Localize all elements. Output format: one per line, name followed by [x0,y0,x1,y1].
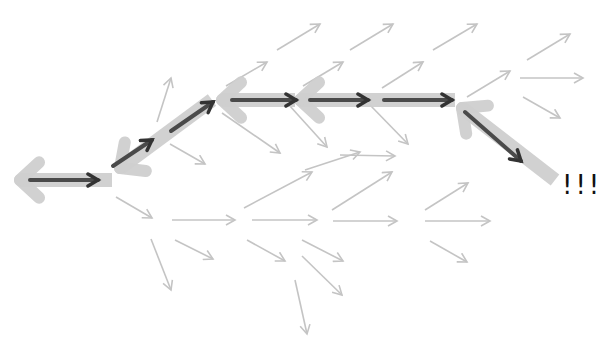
faint-arrow-icon [244,172,312,208]
faint-arrow-icon [247,240,285,261]
faint-arrow-icon [305,152,360,170]
faint-arrow-icon [527,34,570,60]
state-graph-diagram [0,0,610,354]
faint-arrows-layer [116,24,583,334]
faint-arrow-icon [430,241,467,262]
alert-label: !!! [562,170,602,200]
faint-arrow-icon [175,240,213,259]
faint-arrow-icon [425,183,468,210]
faint-arrow-icon [332,172,392,210]
faint-arrow-icon [295,280,307,334]
faint-arrow-icon [467,71,510,97]
faint-arrow-icon [382,62,423,88]
faint-arrow-icon [302,240,343,261]
faint-arrow-icon [433,24,477,50]
faint-arrow-icon [350,24,393,50]
faint-arrow-icon [277,24,320,50]
faint-arrow-icon [523,97,560,118]
highlighted-path-layer [30,100,521,180]
faint-arrow-icon [157,78,171,122]
faint-arrow-icon [151,239,171,290]
faint-arrow-icon [116,197,152,218]
faint-arrow-icon [370,105,408,144]
backtrack-arrow-icon [462,106,555,180]
faint-arrow-icon [222,113,280,153]
path-arrow-icon [465,112,521,161]
faint-arrow-icon [302,256,342,295]
faint-arrow-icon [170,144,205,164]
